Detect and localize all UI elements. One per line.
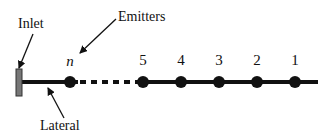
emitter-1	[289, 76, 301, 88]
emitter-n	[64, 76, 76, 88]
emitter-2	[251, 76, 263, 88]
lateral-arrow	[48, 88, 64, 118]
emitter-3	[213, 76, 225, 88]
lateral-label: Lateral	[40, 119, 80, 133]
emitter-5	[137, 76, 149, 88]
inlet-label: Inlet	[18, 17, 44, 31]
emitter-label-5: 5	[139, 53, 147, 68]
emitter-4	[175, 76, 187, 88]
emitter-label-n: n	[66, 54, 74, 69]
emitter-label-4: 4	[177, 53, 185, 68]
emitter-label-1: 1	[291, 53, 299, 68]
inlet-arrow	[19, 34, 33, 68]
emitters-label: Emitters	[118, 10, 165, 24]
emitter-label-2: 2	[253, 53, 261, 68]
emitter-label-3: 3	[215, 53, 223, 68]
emitters-arrow	[80, 19, 116, 53]
inlet-block	[16, 69, 22, 96]
